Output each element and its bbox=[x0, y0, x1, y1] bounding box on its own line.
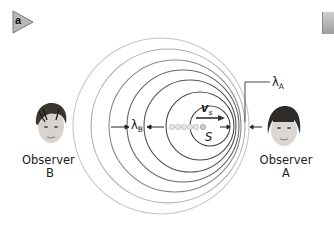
observer-b-face-icon bbox=[31, 100, 71, 148]
lambda-b-label: λB bbox=[131, 119, 143, 133]
source-label: S bbox=[205, 131, 212, 144]
observer-b-label: Observer B bbox=[22, 154, 82, 180]
lambda-a-label: λA bbox=[272, 76, 284, 90]
observer-a-face-icon bbox=[264, 104, 304, 150]
wavefront-7 bbox=[73, 38, 249, 214]
wavefront-5 bbox=[109, 60, 241, 192]
source-positions bbox=[169, 124, 205, 129]
observer-a-label: Observer A bbox=[256, 154, 316, 180]
velocity-label: vs bbox=[201, 102, 212, 116]
